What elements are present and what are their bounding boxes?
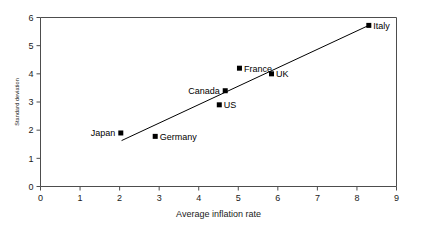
x-tick-label: 2 <box>117 193 122 203</box>
data-point-label: Germany <box>160 132 198 142</box>
plot-frame <box>41 18 397 187</box>
y-tick-label: 5 <box>28 41 33 51</box>
data-point-label: Canada <box>188 86 220 96</box>
x-tick-label: 9 <box>394 193 399 203</box>
data-point-label: Japan <box>91 128 116 138</box>
data-point-label: UK <box>276 69 289 79</box>
data-point-marker <box>366 23 371 28</box>
y-tick-label: 3 <box>28 97 33 107</box>
data-point-marker <box>153 134 158 139</box>
x-tick-label: 0 <box>38 193 43 203</box>
x-tick-label: 6 <box>275 193 280 203</box>
y-tick-label: 4 <box>28 69 33 79</box>
scatter-chart: 01234567890123456Average inflation rateS… <box>0 0 423 233</box>
x-tick-label: 8 <box>354 193 359 203</box>
data-point-marker <box>237 66 242 71</box>
data-point-label: Italy <box>373 21 390 31</box>
trend-line <box>122 25 369 140</box>
y-axis-title: Standard deviation <box>14 78 20 126</box>
data-point-marker <box>217 102 222 107</box>
y-tick-label: 0 <box>28 182 33 192</box>
x-axis-title: Average inflation rate <box>176 209 261 219</box>
data-point-marker <box>118 130 123 135</box>
chart-canvas: 01234567890123456Average inflation rateS… <box>0 0 423 233</box>
y-tick-label: 2 <box>28 125 33 135</box>
x-tick-label: 4 <box>196 193 201 203</box>
data-point-marker <box>223 88 228 93</box>
data-point-label: US <box>224 100 237 110</box>
x-tick-label: 1 <box>78 193 83 203</box>
data-point-marker <box>269 71 274 76</box>
x-tick-label: 5 <box>236 193 241 203</box>
y-tick-label: 6 <box>28 13 33 23</box>
data-point-label: France <box>244 64 272 74</box>
y-tick-label: 1 <box>28 154 33 164</box>
x-tick-label: 7 <box>315 193 320 203</box>
x-tick-label: 3 <box>157 193 162 203</box>
